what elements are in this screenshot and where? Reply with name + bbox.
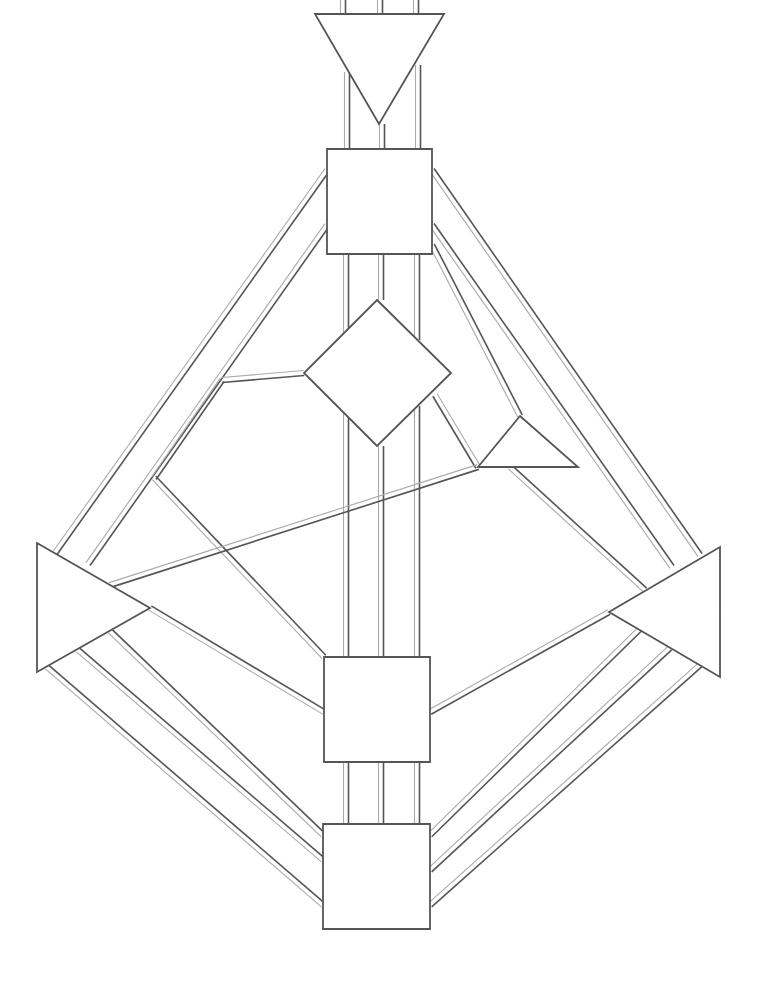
throat-center-square <box>327 149 432 254</box>
root-center-square <box>323 824 430 929</box>
sacral-center-square <box>324 657 430 762</box>
bodygraph-diagram <box>0 0 765 982</box>
